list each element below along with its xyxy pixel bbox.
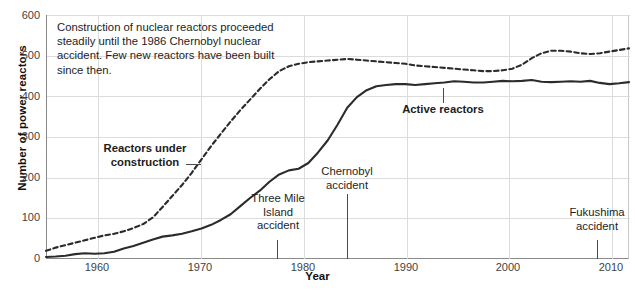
marker-fukushima (597, 240, 598, 259)
annotation-note: Construction of nuclear reactors proceed… (57, 20, 302, 77)
label-line-1: Fukushima (553, 206, 635, 220)
x-tick-2000: 2000 (478, 261, 538, 273)
label-three-mile-island: Three Mile Island accident (236, 192, 320, 233)
label-line-1: Three Mile (236, 192, 320, 206)
source-caption (6, 281, 626, 290)
label-line-1: Active reactors (393, 103, 493, 117)
marker-chernobyl (347, 194, 348, 259)
x-tick-1990: 1990 (376, 261, 436, 273)
x-tick-1980: 1980 (273, 261, 333, 273)
label-reactors-under-construction: Reactors under construction (95, 142, 195, 169)
label-line-2: accident (305, 179, 389, 193)
label-active-reactors: Active reactors (393, 103, 493, 117)
chart-root: Number of power reactors Year 600 500 40… (0, 0, 635, 290)
label-fukushima: Fukushima accident (553, 206, 635, 233)
label-line-3: accident (236, 219, 320, 233)
marker-three-mile-island (277, 240, 278, 259)
label-line-2: Island (236, 206, 320, 220)
label-line-1: Chernobyl (305, 165, 389, 179)
leader-line-construction (186, 164, 201, 165)
x-tick-1960: 1960 (67, 261, 127, 273)
leader-line-active-reactors (443, 88, 444, 103)
x-tick-1970: 1970 (170, 261, 230, 273)
x-tick-2010: 2010 (581, 261, 635, 273)
label-line-2: accident (553, 220, 635, 234)
label-chernobyl: Chernobyl accident (305, 165, 389, 192)
label-line-1: Reactors under (95, 142, 195, 156)
label-line-2: construction (95, 156, 195, 170)
